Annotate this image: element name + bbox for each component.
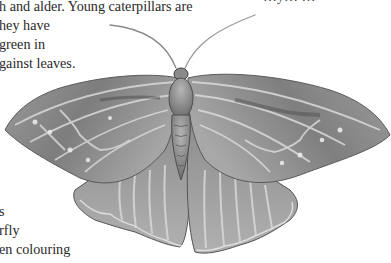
antennae [110,15,255,68]
moth-illustration [0,0,391,263]
right-forewing [188,74,390,182]
